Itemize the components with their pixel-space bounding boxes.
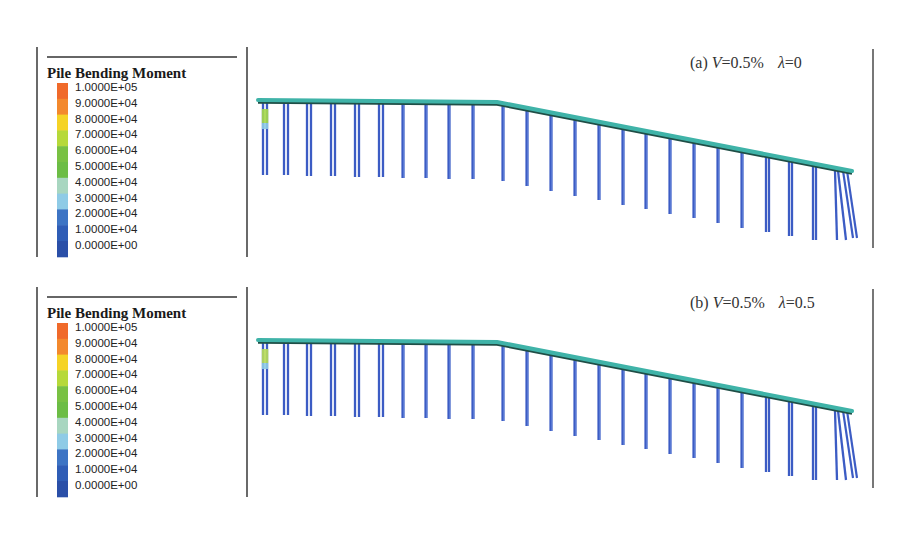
legend-tick-label: 6.0000E+04	[75, 144, 138, 156]
colorbar-band	[57, 162, 68, 178]
moment-gradient	[262, 123, 269, 129]
legend-labels: 1.0000E+059.0000E+048.0000E+047.0000E+04…	[75, 321, 138, 491]
legend-tick-label: 1.0000E+05	[75, 321, 137, 333]
legend-title: Pile Bending Moment	[47, 65, 186, 81]
legend-tick-label: 1.0000E+05	[75, 81, 137, 93]
colorbar-band	[57, 241, 68, 257]
panel-b: Pile Bending Moment 1.0000E+059.0000E+04…	[37, 287, 873, 497]
legend-tick-label: 7.0000E+04	[75, 128, 138, 140]
pier-deck	[258, 340, 852, 411]
legend-tick-label: 9.0000E+04	[75, 337, 138, 349]
colorbar-band	[57, 465, 68, 481]
legend-tick-label: 0.0000E+00	[75, 239, 137, 251]
colorbar-band	[57, 194, 68, 210]
colorbar-band	[57, 130, 68, 146]
moment-hotspot	[262, 109, 269, 123]
legend-colorbar	[57, 323, 68, 497]
legend-tick-label: 3.0000E+04	[75, 432, 138, 444]
legend-tick-label: 4.0000E+04	[75, 176, 138, 188]
panel-a: Pile Bending Moment 1.0000E+059.0000E+04…	[37, 47, 873, 257]
colorbar-band	[57, 418, 68, 434]
pile	[835, 411, 837, 480]
pier-deck	[258, 100, 852, 171]
colorbar-band	[57, 402, 68, 418]
colorbar-band	[57, 225, 68, 241]
colorbar-band	[57, 83, 68, 99]
legend-tick-label: 3.0000E+04	[75, 192, 138, 204]
legend-colorbar	[57, 83, 68, 257]
colorbar-band	[57, 481, 68, 497]
legend-tick-label: 0.0000E+00	[75, 479, 137, 491]
moment-hotspot	[262, 349, 269, 363]
colorbar-band	[57, 146, 68, 162]
legend-tick-label: 8.0000E+04	[75, 113, 138, 125]
legend-labels: 1.0000E+059.0000E+048.0000E+047.0000E+04…	[75, 81, 138, 251]
colorbar-band	[57, 355, 68, 371]
legend-tick-label: 9.0000E+04	[75, 97, 138, 109]
colorbar-band	[57, 370, 68, 386]
legend-tick-label: 2.0000E+04	[75, 447, 138, 459]
moment-gradient	[262, 363, 269, 369]
legend-tick-label: 5.0000E+04	[75, 400, 138, 412]
pier-structure-model	[258, 340, 857, 480]
colorbar-band	[57, 178, 68, 194]
legend-title: Pile Bending Moment	[47, 305, 186, 321]
legend-tick-label: 2.0000E+04	[75, 207, 138, 219]
colorbar-band	[57, 434, 68, 450]
colorbar-band	[57, 449, 68, 465]
legend-tick-label: 5.0000E+04	[75, 160, 138, 172]
colorbar-band	[57, 209, 68, 225]
legend-tick-label: 8.0000E+04	[75, 353, 138, 365]
legend-tick-label: 6.0000E+04	[75, 384, 138, 396]
legend-tick-label: 4.0000E+04	[75, 416, 138, 428]
legend-tick-label: 1.0000E+04	[75, 463, 138, 475]
colorbar-band	[57, 115, 68, 131]
colorbar-band	[57, 386, 68, 402]
colorbar-band	[57, 99, 68, 115]
pile	[835, 171, 837, 240]
pier-structure-model	[258, 100, 857, 240]
legend-tick-label: 1.0000E+04	[75, 223, 138, 235]
colorbar-band	[57, 339, 68, 355]
colorbar-band	[57, 323, 68, 339]
case-label-a: (a) V=0.5%λ=0	[690, 54, 802, 72]
pile-bending-moment-figure: Pile Bending Moment 1.0000E+059.0000E+04…	[0, 0, 909, 539]
legend-tick-label: 7.0000E+04	[75, 368, 138, 380]
case-label-b: (b) V=0.5%λ=0.5	[690, 294, 815, 312]
